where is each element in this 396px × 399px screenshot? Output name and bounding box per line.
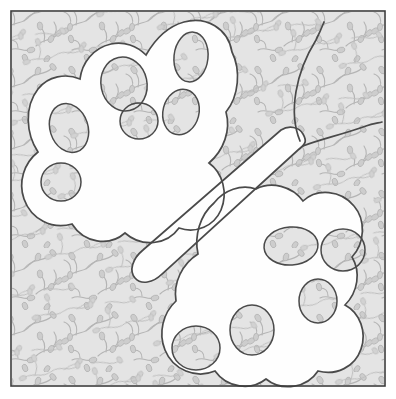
butterfly-block-illustration [0,0,396,399]
butterfly-silhouette [0,0,396,399]
quilt-block-canvas [0,0,396,399]
